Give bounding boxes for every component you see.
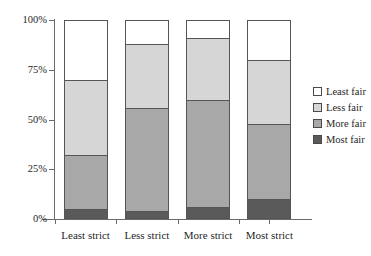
bar-most-strict[interactable] xyxy=(247,20,291,219)
bar-segment-more-fair[interactable] xyxy=(64,155,108,209)
bar-least-strict[interactable] xyxy=(64,20,108,219)
bar-segment-least-fair[interactable] xyxy=(186,20,230,38)
bar-less-strict[interactable] xyxy=(125,20,169,219)
legend-label: More fair xyxy=(326,118,366,129)
legend-label: Most fair xyxy=(326,134,365,145)
legend-swatch-icon xyxy=(313,119,322,128)
legend-item-more-fair[interactable]: More fair xyxy=(313,116,371,131)
y-tick-label-wrap: 100% xyxy=(0,15,47,25)
y-tick-label: 50% xyxy=(3,115,47,125)
bar-segment-most-fair[interactable] xyxy=(125,211,169,219)
x-tick-mark xyxy=(269,219,270,224)
x-axis-line xyxy=(42,219,312,220)
y-tick-label-wrap: 0% xyxy=(0,214,47,224)
legend-item-less-fair[interactable]: Less fair xyxy=(313,100,371,115)
x-tick-mark xyxy=(178,219,179,224)
stacked-bar-chart: 0%25%50%75%100% Least strictLess strictM… xyxy=(0,0,371,256)
bar-segment-most-fair[interactable] xyxy=(247,199,291,219)
y-tick-label-wrap: 50% xyxy=(0,115,47,125)
chart-legend: Least fairLess fairMore fairMost fair xyxy=(313,84,371,148)
bar-more-strict[interactable] xyxy=(186,20,230,219)
y-tick-label-wrap: 75% xyxy=(0,65,47,75)
x-tick-mark xyxy=(55,219,56,224)
bar-segment-more-fair[interactable] xyxy=(247,124,291,200)
bar-segment-more-fair[interactable] xyxy=(125,108,169,211)
plot-area xyxy=(55,20,300,219)
y-tick-label-wrap: 25% xyxy=(0,164,47,174)
x-tick-mark xyxy=(239,219,240,224)
bar-segment-most-fair[interactable] xyxy=(186,207,230,219)
bar-segment-less-fair[interactable] xyxy=(125,44,169,108)
y-tick-label: 25% xyxy=(3,164,47,174)
bar-segment-less-fair[interactable] xyxy=(64,80,108,156)
bar-segment-less-fair[interactable] xyxy=(186,38,230,100)
legend-swatch-icon xyxy=(313,103,322,112)
bar-segment-most-fair[interactable] xyxy=(64,209,108,219)
x-tick-label-most-strict: Most strict xyxy=(229,229,309,242)
legend-item-most-fair[interactable]: Most fair xyxy=(313,132,371,147)
legend-label: Least fair xyxy=(326,86,366,97)
legend-swatch-icon xyxy=(313,135,322,144)
legend-swatch-icon xyxy=(313,87,322,96)
bar-segment-more-fair[interactable] xyxy=(186,100,230,207)
bar-segment-less-fair[interactable] xyxy=(247,60,291,124)
y-tick-label: 0% xyxy=(3,214,47,224)
legend-item-least-fair[interactable]: Least fair xyxy=(313,84,371,99)
bar-segment-least-fair[interactable] xyxy=(64,20,108,80)
y-tick-label: 100% xyxy=(3,15,47,25)
x-tick-mark xyxy=(116,219,117,224)
bar-segment-least-fair[interactable] xyxy=(247,20,291,60)
legend-label: Less fair xyxy=(326,102,362,113)
bar-segment-least-fair[interactable] xyxy=(125,20,169,44)
y-tick-label: 75% xyxy=(3,65,47,75)
